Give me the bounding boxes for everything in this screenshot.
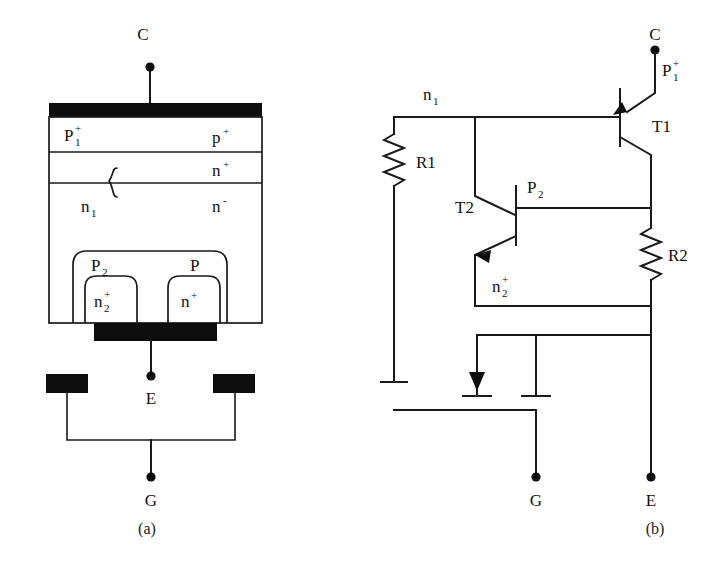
collector-node-dot <box>145 62 154 71</box>
gate-terminal-a <box>146 440 155 482</box>
device-body-outline <box>49 117 262 323</box>
t2-base-region-label: P 2 <box>527 178 544 200</box>
collector-label-a: C <box>137 25 148 44</box>
n-minus-drift-label: n - <box>212 194 227 216</box>
n-minus-sup: - <box>223 194 227 206</box>
resistor-R2 <box>641 208 661 306</box>
gate-metal-right <box>213 374 255 393</box>
p2b-label-base: P <box>527 178 536 197</box>
cross-section-diagram: C P 1 + p + n + n 1 n - <box>46 25 262 510</box>
figure-root: C P 1 + p + n + n 1 n - <box>0 0 725 577</box>
p1b-label-sup: + <box>673 57 679 69</box>
r2-zigzag-body <box>641 228 661 280</box>
n-plus-source-label: n + <box>181 289 197 311</box>
p-plus-label-sup: + <box>223 125 229 137</box>
collector-terminal-b <box>627 45 660 112</box>
n-minus-base: n <box>212 197 221 216</box>
n2b-label-base: n <box>492 277 501 296</box>
gate-node-dot-b <box>531 472 540 481</box>
p-well-label: P <box>190 256 199 275</box>
gate-rail-b <box>394 410 536 474</box>
r1-zigzag-body <box>384 134 404 186</box>
n1-node-label: n 1 <box>423 85 439 107</box>
mos-rail-left-branch <box>477 335 651 395</box>
p-plus-right-label: p + <box>212 125 229 147</box>
p1-label-sub: 1 <box>75 136 81 148</box>
caption-b: (b) <box>646 520 665 538</box>
n2-plus-source-outline <box>85 276 137 323</box>
r1-label: R1 <box>416 153 436 172</box>
n1b-label-sub: 1 <box>433 95 439 107</box>
p2-label-sub: 2 <box>102 266 108 278</box>
n2b-label-sup: + <box>502 273 508 285</box>
n2b-label-sub: 2 <box>502 287 508 299</box>
p2b-label-sub: 2 <box>538 188 544 200</box>
gate-label-a: G <box>145 491 157 510</box>
p1-label-base: P <box>64 126 73 145</box>
t2-label: T2 <box>455 198 474 217</box>
top-metal-contact <box>49 103 262 117</box>
mct-figure-svg: C P 1 + p + n + n 1 n - <box>0 0 725 577</box>
emitter-label-a: E <box>146 389 156 408</box>
gate-label-b: G <box>530 491 542 510</box>
n2-source-sub: 2 <box>104 302 110 314</box>
caption-a: (a) <box>138 520 156 538</box>
n-plus-buffer-base: n <box>212 161 221 180</box>
n1-label-sub: 1 <box>91 207 97 219</box>
n-source-base: n <box>181 292 190 311</box>
emitter-node-dot-b <box>646 472 655 481</box>
collector-label-b: C <box>649 25 660 44</box>
emitter-node-dot <box>146 371 155 380</box>
t1-label: T1 <box>652 117 671 136</box>
n1b-label-base: n <box>423 85 432 104</box>
p2-well-label: P 2 <box>91 256 108 278</box>
p2-label-base: P <box>91 256 100 275</box>
on-fet-arrowhead-icon <box>469 372 485 391</box>
t2-emitter-region-label: n 2 + <box>492 273 508 299</box>
resistor-R1 <box>381 117 407 382</box>
t1-emitter-lead <box>627 52 655 112</box>
n2-source-base: n <box>94 292 103 311</box>
gate-node-dot <box>146 472 155 481</box>
p-plus-label-base: p <box>212 128 221 147</box>
collector-terminal-a <box>145 62 154 104</box>
r2-label: R2 <box>668 246 688 265</box>
gate-metal-left <box>46 374 88 393</box>
t2-collector-lead <box>475 117 515 215</box>
t1-collector-lead <box>620 137 651 212</box>
n1-drift-label: n 1 <box>81 197 97 219</box>
p1-plus-layer-label: P 1 + <box>64 122 81 148</box>
equivalent-circuit-diagram: C P 1 + T1 n 1 R1 T2 P 2 n 2 + R <box>381 25 688 510</box>
p1-label-sup: + <box>75 122 81 134</box>
p1b-label-sub: 1 <box>673 71 679 83</box>
n2-source-sup: + <box>104 288 110 300</box>
emitter-label-b: E <box>646 491 656 510</box>
emitter-terminal-a <box>146 341 155 381</box>
n2-plus-source-label: n 2 + <box>94 288 110 314</box>
n-plus-buffer-label: n + <box>212 158 229 180</box>
n-source-sup: + <box>191 289 197 301</box>
emitter-metal-contact <box>94 323 217 341</box>
t1-emitter-region-label: P 1 + <box>662 57 679 83</box>
n-plus-buffer-sup: + <box>223 158 229 170</box>
p1b-label-base: P <box>662 61 671 80</box>
n1-label-base: n <box>81 197 90 216</box>
